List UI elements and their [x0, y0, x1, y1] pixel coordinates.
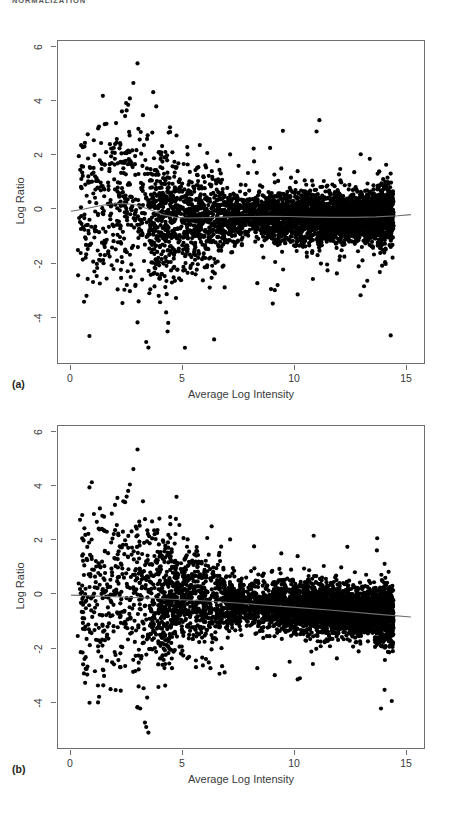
panel-label-b: (b) [12, 763, 25, 775]
ytick-label-a-m4: -4 [32, 305, 44, 331]
ytick-b-6 [51, 431, 56, 432]
figure-panel-b: 6 4 2 0 -2 -4 Log Ratio 0 5 10 15 Averag… [0, 404, 450, 804]
ytick-label-a-2: 2 [32, 144, 44, 166]
xtick-b-5 [182, 750, 183, 755]
axis-title-x-b: Average Log Intensity [57, 773, 425, 785]
xtick-a-0 [70, 365, 71, 370]
xtick-label-a-0: 0 [58, 372, 82, 384]
xtick-label-b-10: 10 [282, 757, 306, 769]
ytick-a-0 [51, 208, 56, 209]
fitted-line-b [58, 426, 424, 748]
ytick-b-0 [51, 593, 56, 594]
axis-title-y-a: Log Ratio [14, 166, 26, 236]
xtick-b-10 [294, 750, 295, 755]
xtick-a-5 [182, 365, 183, 370]
ytick-a-2 [51, 154, 56, 155]
ytick-a-m2 [51, 263, 56, 264]
figure-panel-a: 6 4 2 0 -2 -4 Log Ratio 0 5 10 15 Averag… [0, 18, 450, 406]
xtick-label-b-15: 15 [394, 757, 418, 769]
xtick-label-a-5: 5 [170, 372, 194, 384]
ytick-a-4 [51, 100, 56, 101]
xtick-a-10 [294, 365, 295, 370]
xtick-b-15 [406, 750, 407, 755]
ytick-label-a-4: 4 [32, 90, 44, 112]
axis-title-y-b: Log Ratio [14, 551, 26, 621]
ytick-b-4 [51, 485, 56, 486]
ytick-a-6 [51, 46, 56, 47]
ytick-label-b-6: 6 [32, 421, 44, 443]
plot-area-a [57, 40, 425, 364]
running-head: NORMALIZATION [12, 0, 86, 4]
ytick-label-b-m2: -2 [32, 636, 44, 662]
ytick-b-m2 [51, 648, 56, 649]
ytick-label-a-m2: -2 [32, 251, 44, 277]
ytick-label-b-4: 4 [32, 475, 44, 497]
panel-label-a: (a) [12, 378, 25, 390]
xtick-b-0 [70, 750, 71, 755]
xtick-label-a-10: 10 [282, 372, 306, 384]
xtick-label-a-15: 15 [394, 372, 418, 384]
xtick-label-b-0: 0 [58, 757, 82, 769]
ytick-b-2 [51, 539, 56, 540]
ytick-label-b-m4: -4 [32, 690, 44, 716]
axis-title-x-a: Average Log Intensity [57, 388, 425, 400]
ytick-a-m4 [51, 317, 56, 318]
xtick-a-15 [406, 365, 407, 370]
lowess-curve-a [58, 41, 424, 363]
ytick-label-a-6: 6 [32, 36, 44, 58]
ytick-label-b-0: 0 [32, 583, 44, 605]
xtick-label-b-5: 5 [170, 757, 194, 769]
ytick-b-m4 [51, 702, 56, 703]
ytick-label-b-2: 2 [32, 529, 44, 551]
plot-area-b [57, 425, 425, 749]
ytick-label-a-0: 0 [32, 198, 44, 220]
